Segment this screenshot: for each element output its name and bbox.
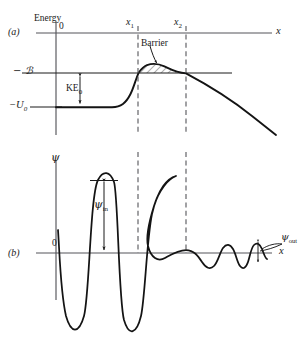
panel-b-y-axis-label: ψ bbox=[51, 152, 60, 163]
psi-inside-label: ψin bbox=[94, 199, 108, 213]
panel-b-origin-label: 0 bbox=[52, 239, 57, 249]
turning-point-x2-label: x2 bbox=[174, 17, 182, 30]
turning-point-x1-label: x1 bbox=[126, 17, 134, 30]
panel-a-id: (a) bbox=[8, 27, 20, 37]
panel-a-origin-label: 0 bbox=[59, 22, 64, 32]
kinetic-energy-label: KE0 bbox=[66, 84, 82, 96]
wave-function-curve bbox=[58, 173, 267, 331]
panel-b-id: (b) bbox=[8, 248, 20, 258]
total-energy-label: − ℬ bbox=[13, 66, 33, 76]
kinetic-energy-subscript: 0 bbox=[79, 88, 83, 96]
psi-outside-label: ψout bbox=[281, 232, 297, 244]
psi-inside-subscript: in bbox=[103, 205, 108, 213]
psi-outside-sym: ψ bbox=[281, 231, 289, 242]
well-depth-subscript: 0 bbox=[24, 105, 28, 113]
figure-canvas bbox=[0, 0, 306, 347]
potential-energy-curve bbox=[56, 64, 276, 135]
x1-subscript: 1 bbox=[130, 22, 134, 30]
barrier-annotation-label: Barrier bbox=[141, 39, 168, 49]
kinetic-energy-sym: KE bbox=[66, 83, 79, 93]
panel-a-y-axis-label: Energy bbox=[34, 14, 61, 24]
panel-b-x-axis-label: x bbox=[279, 246, 284, 257]
x2-subscript: 2 bbox=[178, 22, 182, 30]
psi-outside-subscript: out bbox=[289, 237, 297, 244]
panel-a-x-axis-label: x bbox=[276, 26, 281, 37]
barrier-callout-leader bbox=[150, 46, 157, 63]
psi-inside-sym: ψ bbox=[94, 198, 103, 211]
well-depth-sym: −U bbox=[9, 99, 24, 110]
well-depth-label: −U0 bbox=[9, 100, 27, 113]
